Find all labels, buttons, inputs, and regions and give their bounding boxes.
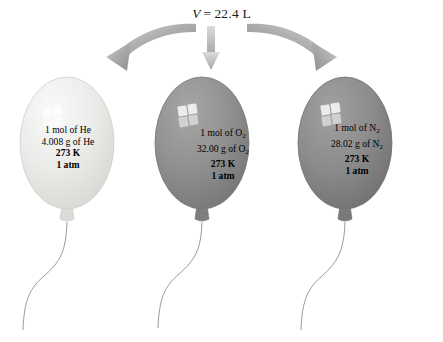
string-helium (23, 222, 67, 330)
nitrogen-moles-line: 1 mol of N2 (297, 122, 417, 138)
nitrogen-mass-line: 28.02 g of N2 (297, 138, 417, 154)
volume-variable: V (192, 6, 200, 21)
nitrogen-pressure-line: 1 atm (297, 165, 417, 177)
helium-temperature-line: 273 K (8, 147, 128, 159)
oxygen-pressure-line: 1 atm (163, 170, 283, 182)
volume-value: 22.4 L (214, 6, 250, 21)
oxygen-temperature-line: 273 K (163, 158, 283, 170)
volume-title-label: V=22.4 L (0, 6, 443, 22)
oxygen-moles-line: 1 mol of O2 (163, 127, 283, 143)
helium-pressure-line: 1 atm (8, 159, 128, 171)
string-nitrogen (301, 222, 345, 330)
oxygen-mass-line: 32.00 g of O2 (163, 143, 283, 159)
arrow-to-nitrogen-balloon (247, 24, 337, 71)
arrow-to-oxygen-balloon (202, 26, 220, 70)
helium-mass-line: 4.008 g of He (8, 136, 128, 148)
balloon-strings (23, 222, 345, 330)
volume-equals-sign: = (201, 6, 215, 21)
balloon-helium-label: 1 mol of He 4.008 g of He 273 K 1 atm (8, 124, 128, 170)
balloon-oxygen-label: 1 mol of O2 32.00 g of O2 273 K 1 atm (163, 127, 283, 181)
molar-volume-balloons-figure: V=22.4 L 1 mol of He 4.008 g of He 273 K… (0, 0, 443, 342)
balloon-nitrogen-label: 1 mol of N2 28.02 g of N2 273 K 1 atm (297, 122, 417, 176)
helium-moles-line: 1 mol of He (8, 124, 128, 136)
nitrogen-temperature-line: 273 K (297, 153, 417, 165)
arrow-to-helium-balloon (106, 24, 196, 71)
string-oxygen (158, 222, 202, 328)
